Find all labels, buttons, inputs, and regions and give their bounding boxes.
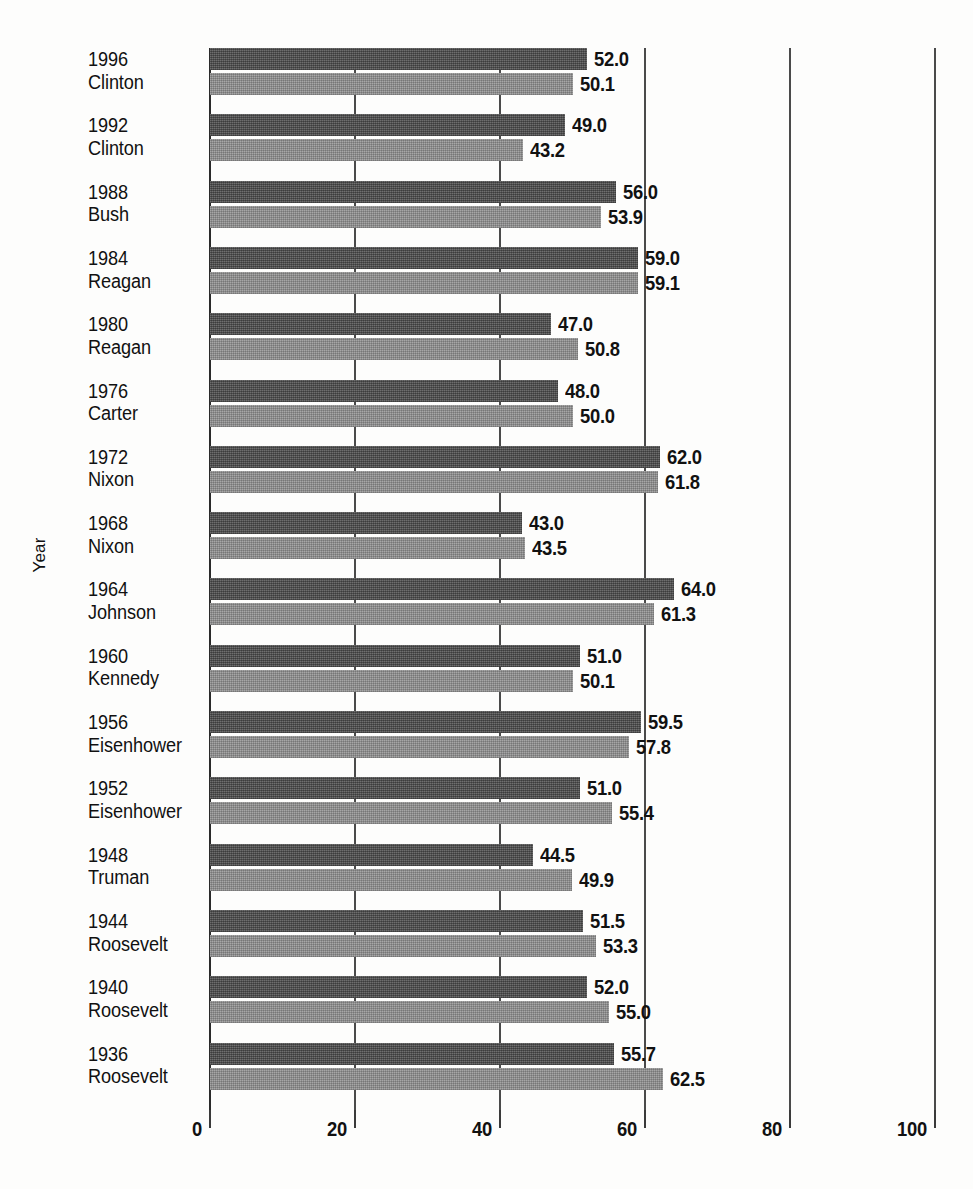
x-tick-label-20: 20 — [327, 1118, 347, 1141]
bar-light — [210, 1068, 663, 1090]
category-year: 1948 — [88, 844, 198, 867]
bar-light — [210, 736, 629, 758]
bar-group: 1976Carter48.050.0 — [0, 380, 973, 427]
bar-group: 1936Roosevelt55.762.5 — [0, 1043, 973, 1090]
category-president: Eisenhower — [88, 800, 198, 823]
bar-group: 1964Johnson64.061.3 — [0, 578, 973, 625]
category-president: Reagan — [88, 336, 198, 359]
category-label: 1976Carter — [88, 380, 206, 425]
category-label: 1940Roosevelt — [88, 976, 206, 1021]
category-president: Clinton — [88, 71, 198, 94]
bar-light — [210, 471, 658, 493]
category-label: 1992Clinton — [88, 114, 206, 159]
bar-group: 1992Clinton49.043.2 — [0, 114, 973, 161]
category-year: 1988 — [88, 181, 198, 204]
bar-value-label: 57.8 — [636, 736, 671, 758]
bar-value-label: 55.4 — [619, 802, 654, 824]
category-label: 1972Nixon — [88, 446, 206, 491]
bar-value-label: 44.5 — [540, 844, 575, 866]
category-president: Roosevelt — [88, 999, 198, 1022]
x-tick-mark-0 — [209, 1110, 211, 1128]
bar-light — [210, 869, 572, 891]
bar-group: 1944Roosevelt51.553.3 — [0, 910, 973, 957]
bar-dark — [210, 844, 533, 866]
bar-group: 1980Reagan47.050.8 — [0, 313, 973, 360]
bar-light — [210, 338, 578, 360]
bar-dark — [210, 48, 587, 70]
bar-value-label: 62.5 — [670, 1068, 705, 1090]
bar-light — [210, 935, 596, 957]
bar-value-label: 55.0 — [616, 1001, 651, 1023]
bar-value-label: 61.8 — [665, 471, 700, 493]
bar-value-label: 49.9 — [579, 869, 614, 891]
category-year: 1972 — [88, 446, 198, 469]
category-label: 1984Reagan — [88, 247, 206, 292]
bar-light — [210, 802, 612, 824]
bar-value-label: 55.7 — [621, 1043, 656, 1065]
x-tick-label-40: 40 — [472, 1118, 492, 1141]
bar-dark — [210, 711, 641, 733]
bar-dark — [210, 645, 580, 667]
x-tick-mark-20 — [354, 1110, 356, 1128]
bar-light — [210, 603, 654, 625]
bar-group: 1948Truman44.549.9 — [0, 844, 973, 891]
bar-value-label: 56.0 — [623, 181, 658, 203]
category-president: Reagan — [88, 270, 198, 293]
category-year: 1976 — [88, 380, 198, 403]
bar-value-label: 52.0 — [594, 48, 629, 70]
bar-dark — [210, 512, 522, 534]
bar-value-label: 50.0 — [580, 405, 615, 427]
bar-value-label: 49.0 — [572, 114, 607, 136]
category-year: 1960 — [88, 645, 198, 668]
bar-light — [210, 272, 638, 294]
bar-value-label: 47.0 — [558, 313, 593, 335]
category-label: 1944Roosevelt — [88, 910, 206, 955]
category-label: 1936Roosevelt — [88, 1043, 206, 1088]
bar-group: 1996Clinton52.050.1 — [0, 48, 973, 95]
bar-light — [210, 73, 573, 95]
category-year: 1996 — [88, 48, 198, 71]
category-year: 1984 — [88, 247, 198, 270]
category-year: 1936 — [88, 1043, 198, 1066]
bar-value-label: 51.0 — [587, 645, 622, 667]
x-tick-label-80: 80 — [762, 1118, 782, 1141]
category-label: 1988Bush — [88, 181, 206, 226]
bar-light — [210, 139, 523, 161]
bar-light — [210, 1001, 609, 1023]
bar-value-label: 50.1 — [580, 73, 615, 95]
bar-group: 1988Bush56.053.9 — [0, 181, 973, 228]
category-label: 1960Kennedy — [88, 645, 206, 690]
bar-value-label: 43.0 — [529, 512, 564, 534]
category-year: 1968 — [88, 512, 198, 535]
category-president: Bush — [88, 203, 198, 226]
bar-dark — [210, 1043, 614, 1065]
bar-value-label: 48.0 — [565, 380, 600, 402]
category-year: 1964 — [88, 578, 198, 601]
category-president: Johnson — [88, 601, 198, 624]
bar-light — [210, 405, 573, 427]
bar-value-label: 53.9 — [608, 206, 643, 228]
bar-dark — [210, 578, 674, 600]
bar-group: 1984Reagan59.059.1 — [0, 247, 973, 294]
bar-value-label: 50.8 — [585, 338, 620, 360]
bar-group: 1972Nixon62.061.8 — [0, 446, 973, 493]
bar-value-label: 51.0 — [587, 777, 622, 799]
bar-value-label: 51.5 — [590, 910, 625, 932]
x-tick-label-100: 100 — [897, 1118, 927, 1141]
bar-dark — [210, 114, 565, 136]
x-tick-label-0: 0 — [192, 1118, 202, 1141]
bar-group: 1940Roosevelt52.055.0 — [0, 976, 973, 1023]
bar-value-label: 50.1 — [580, 670, 615, 692]
bar-value-label: 59.5 — [648, 711, 683, 733]
bar-dark — [210, 313, 551, 335]
category-label: 1952Eisenhower — [88, 777, 206, 822]
category-year: 1992 — [88, 114, 198, 137]
category-label: 1980Reagan — [88, 313, 206, 358]
bar-dark — [210, 380, 558, 402]
bar-dark — [210, 976, 587, 998]
bar-dark — [210, 247, 638, 269]
x-tick-mark-80 — [789, 1110, 791, 1128]
bar-value-label: 59.1 — [645, 272, 680, 294]
category-label: 1964Johnson — [88, 578, 206, 623]
election-turnout-bar-chart: Year 1996Clinton52.050.11992Clinton49.04… — [0, 0, 973, 1189]
